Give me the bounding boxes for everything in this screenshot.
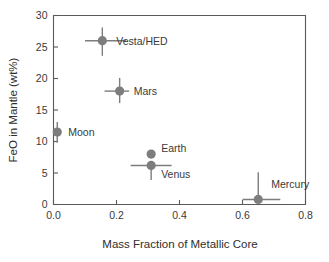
x-tick-label-4: 0.8 xyxy=(298,209,313,221)
label-vesta-hed: Vesta/HED xyxy=(116,35,168,47)
marker-earth xyxy=(147,150,156,159)
label-moon: Moon xyxy=(68,126,94,138)
x-tick-label-2: 0.4 xyxy=(172,209,187,221)
y-axis-title: FeO in Mantle (wt%) xyxy=(7,57,19,162)
marker-venus xyxy=(147,161,156,170)
marker-moon xyxy=(53,127,62,136)
marker-mercury xyxy=(254,195,263,204)
x-tick-label-0: 0.0 xyxy=(46,209,61,221)
data-point-labels: Vesta/HEDMarsMoonEarthVenusMercury xyxy=(68,35,310,191)
marker-mars xyxy=(115,87,124,96)
label-mars: Mars xyxy=(134,85,157,97)
label-venus: Venus xyxy=(161,168,190,180)
x-axis-tick-labels: 0.00.20.40.60.8 xyxy=(46,209,313,221)
marker-vesta-hed xyxy=(98,36,107,45)
y-axis-tick-labels: 051015202530 xyxy=(36,9,48,210)
y-tick-label-5: 25 xyxy=(36,41,48,53)
x-tick-label-1: 0.2 xyxy=(109,209,124,221)
x-axis-title: Mass Fraction of Metallic Core xyxy=(102,238,257,250)
y-tick-label-1: 5 xyxy=(42,167,48,179)
label-earth: Earth xyxy=(161,142,186,154)
y-tick-label-0: 0 xyxy=(42,198,48,210)
label-mercury: Mercury xyxy=(271,178,310,190)
y-tick-label-4: 20 xyxy=(36,72,48,84)
data-markers xyxy=(53,36,263,204)
chart-figure: 0.00.20.40.60.8 051015202530 Vesta/HEDMa… xyxy=(0,0,329,262)
y-tick-label-6: 30 xyxy=(36,9,48,21)
scatter-plot: 0.00.20.40.60.8 051015202530 Vesta/HEDMa… xyxy=(0,0,329,262)
x-tick-label-3: 0.6 xyxy=(235,209,250,221)
y-tick-label-2: 10 xyxy=(36,135,48,147)
y-tick-label-3: 15 xyxy=(36,104,48,116)
x-axis-ticks xyxy=(54,200,306,205)
y-axis-ticks xyxy=(54,16,59,205)
